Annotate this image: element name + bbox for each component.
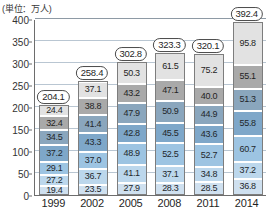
y-axis-tick — [29, 20, 32, 21]
y-axis-tick-label: 150 — [12, 125, 29, 136]
bar-segment: 41.1 — [117, 165, 147, 183]
x-axis-label-1999: 1999 — [41, 197, 65, 209]
bar-segment: 36.7 — [78, 169, 108, 185]
bar-segment: 75.2 — [194, 54, 224, 87]
y-axis-tick — [29, 196, 32, 197]
bar-2005[interactable]: 27.941.148.942.847.943.250.3 — [117, 62, 147, 195]
y-axis-tick-label: 400 — [12, 15, 29, 26]
total-label-2002: 258.4 — [76, 66, 108, 80]
y-axis-tick — [29, 152, 32, 153]
bar-segment: 29.1 — [39, 162, 69, 175]
bar-segment: 52.7 — [194, 144, 224, 167]
bar-segment: 37.1 — [155, 166, 185, 182]
y-axis-labels: 050100150200250300350400 — [0, 20, 32, 196]
y-axis-tick-label: 200 — [12, 103, 29, 114]
unit-label: (単位：万人) — [2, 2, 52, 15]
y-axis-tick — [29, 108, 32, 109]
bar-segment: 37.0 — [78, 152, 108, 168]
y-axis-tick — [29, 42, 32, 43]
bar-2002[interactable]: 23.536.737.043.341.438.837.1 — [78, 81, 108, 195]
y-axis-tick-label: 100 — [12, 147, 29, 158]
bar-segment: 52.5 — [155, 143, 185, 166]
y-axis-tick-label: 50 — [18, 169, 29, 180]
bar-segment: 55.8 — [233, 111, 263, 136]
bar-segment: 37.2 — [39, 145, 69, 161]
bar-segment: 47.1 — [155, 80, 185, 101]
bar-segment: 55.1 — [233, 65, 263, 89]
bar-2014[interactable]: 36.837.260.755.851.355.195.8 — [233, 22, 263, 195]
bar-segment: 19.4 — [39, 186, 69, 195]
bar-segment: 43.3 — [78, 133, 108, 152]
total-label-1999: 204.1 — [37, 90, 69, 104]
bar-segment: 41.4 — [78, 115, 108, 133]
bar-segment: 51.3 — [233, 89, 263, 112]
x-axis-label-2011: 2011 — [197, 197, 220, 209]
total-label-2005: 302.8 — [115, 47, 147, 61]
bar-segment: 95.8 — [233, 22, 263, 64]
x-axis-label-2008: 2008 — [157, 197, 181, 209]
bar-segment: 34.8 — [194, 167, 224, 182]
y-axis-tick — [29, 64, 32, 65]
y-axis-tick-label: 300 — [12, 59, 29, 70]
total-label-2011: 320.1 — [192, 39, 224, 53]
bar-segment: 60.7 — [233, 136, 263, 163]
bar-segment: 47.9 — [117, 103, 147, 124]
stacked-bar-chart: (単位：万人) 050100150200250300350400 19.427.… — [0, 0, 271, 221]
bar-segment: 42.8 — [117, 124, 147, 143]
x-axis-label-2014: 2014 — [235, 197, 259, 209]
bar-2008[interactable]: 28.337.152.545.550.947.161.5 — [155, 53, 185, 195]
x-axis-label-2002: 2002 — [80, 197, 104, 209]
bar-segment: 23.5 — [78, 185, 108, 195]
bar-segment: 36.8 — [233, 179, 263, 195]
y-axis-tick — [29, 86, 32, 87]
x-axis-labels: 199920022005200820112014 — [34, 197, 266, 219]
plot-area: 19.427.229.137.234.532.424.423.536.737.0… — [34, 20, 266, 196]
bar-segment: 38.8 — [78, 98, 108, 115]
bar-segment: 43.2 — [117, 84, 147, 103]
bar-segment: 37.2 — [233, 162, 263, 178]
y-axis-tick — [29, 174, 32, 175]
bar-segment: 27.9 — [117, 183, 147, 195]
total-label-2008: 323.3 — [153, 38, 185, 52]
bar-segment: 48.9 — [117, 143, 147, 165]
bar-2011[interactable]: 28.534.852.743.644.940.075.2 — [194, 54, 224, 195]
bar-segment: 24.4 — [39, 105, 69, 116]
y-axis-tick — [29, 130, 32, 131]
x-axis-label-2005: 2005 — [119, 197, 143, 209]
bar-segment: 40.0 — [194, 87, 224, 105]
bar-segment: 43.6 — [194, 125, 224, 144]
y-axis-tick-label: 350 — [12, 37, 29, 48]
y-axis-tick-label: 250 — [12, 81, 29, 92]
bar-segment: 32.4 — [39, 116, 69, 130]
bar-segment: 45.5 — [155, 123, 185, 143]
bar-segment: 44.9 — [194, 105, 224, 125]
bar-series-container: 19.427.229.137.234.532.424.423.536.737.0… — [35, 20, 266, 195]
bar-1999[interactable]: 19.427.229.137.234.532.424.4 — [39, 105, 69, 195]
bar-segment: 37.1 — [78, 82, 108, 98]
bar-segment: 61.5 — [155, 53, 185, 80]
bar-segment: 27.2 — [39, 175, 69, 187]
bar-segment: 28.3 — [155, 183, 185, 195]
total-label-2014: 392.4 — [231, 7, 263, 21]
bar-segment: 50.3 — [117, 62, 147, 84]
bar-segment: 28.5 — [194, 182, 224, 195]
bar-segment: 50.9 — [155, 101, 185, 123]
bar-segment: 34.5 — [39, 130, 69, 145]
